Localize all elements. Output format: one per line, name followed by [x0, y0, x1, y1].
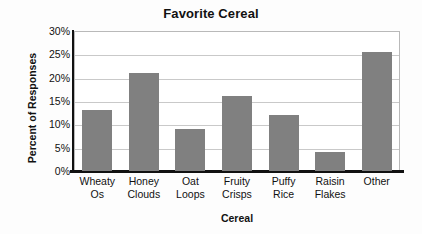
- x-axis-tick-label: FruityCrisps: [214, 175, 261, 200]
- y-axis-tick-label: 20%: [34, 72, 70, 84]
- x-axis-tick-label-line: Raisin: [307, 175, 354, 188]
- x-axis-tick-label-line: Puffy: [260, 175, 307, 188]
- x-axis-tick-label-line: Os: [74, 188, 121, 201]
- bar-puffy-rice: [269, 115, 299, 171]
- x-axis-tick-label: WheatyOs: [74, 175, 121, 200]
- x-axis-tick-label-line: Honey: [121, 175, 168, 188]
- x-axis-tick-label: HoneyClouds: [121, 175, 168, 200]
- y-axis-tick-label: 5%: [34, 142, 70, 154]
- bar-wheaty-os: [82, 110, 112, 171]
- bars-group: [74, 31, 400, 171]
- x-axis-tick-labels: WheatyOsHoneyCloudsOatLoopsFruityCrispsP…: [74, 175, 400, 213]
- bar-other: [362, 52, 392, 171]
- x-axis-tick-label: RaisinFlakes: [307, 175, 354, 200]
- x-axis-tick-label-line: Fruity: [214, 175, 261, 188]
- y-axis-tick-label: 15%: [34, 95, 70, 107]
- chart-title: Favorite Cereal: [0, 6, 422, 21]
- x-axis-tick-label: OatLoops: [167, 175, 214, 200]
- x-axis-tick-label-line: Loops: [167, 188, 214, 201]
- x-axis-tick-label-line: Other: [353, 175, 400, 188]
- x-axis-tick-label: PuffyRice: [260, 175, 307, 200]
- y-axis-tick-label: 0%: [34, 165, 70, 177]
- favorite-cereal-bar-chart: Favorite Cereal Percent of Responses 30%…: [0, 0, 422, 234]
- x-axis-tick-label-line: Crisps: [214, 188, 261, 201]
- x-axis-title: Cereal: [74, 212, 400, 224]
- bar-oat-loops: [175, 129, 205, 171]
- y-axis-tick-label: 25%: [34, 48, 70, 60]
- bar-fruity-crisps: [222, 96, 252, 171]
- x-axis-tick-label-line: Clouds: [121, 188, 168, 201]
- bar-honey-clouds: [129, 73, 159, 171]
- y-axis-tick-labels: 30%25%20%15%10%5%0%: [30, 31, 70, 171]
- y-axis-tick-label: 30%: [34, 25, 70, 37]
- x-axis-tick-label-line: Oat: [167, 175, 214, 188]
- x-axis-tick-label-line: Wheaty: [74, 175, 121, 188]
- x-axis-tick-label: Other: [353, 175, 400, 188]
- bar-raisin-flakes: [315, 152, 345, 171]
- x-axis-tick-label-line: Flakes: [307, 188, 354, 201]
- y-axis-tick-label: 10%: [34, 118, 70, 130]
- x-axis-tick-label-line: Rice: [260, 188, 307, 201]
